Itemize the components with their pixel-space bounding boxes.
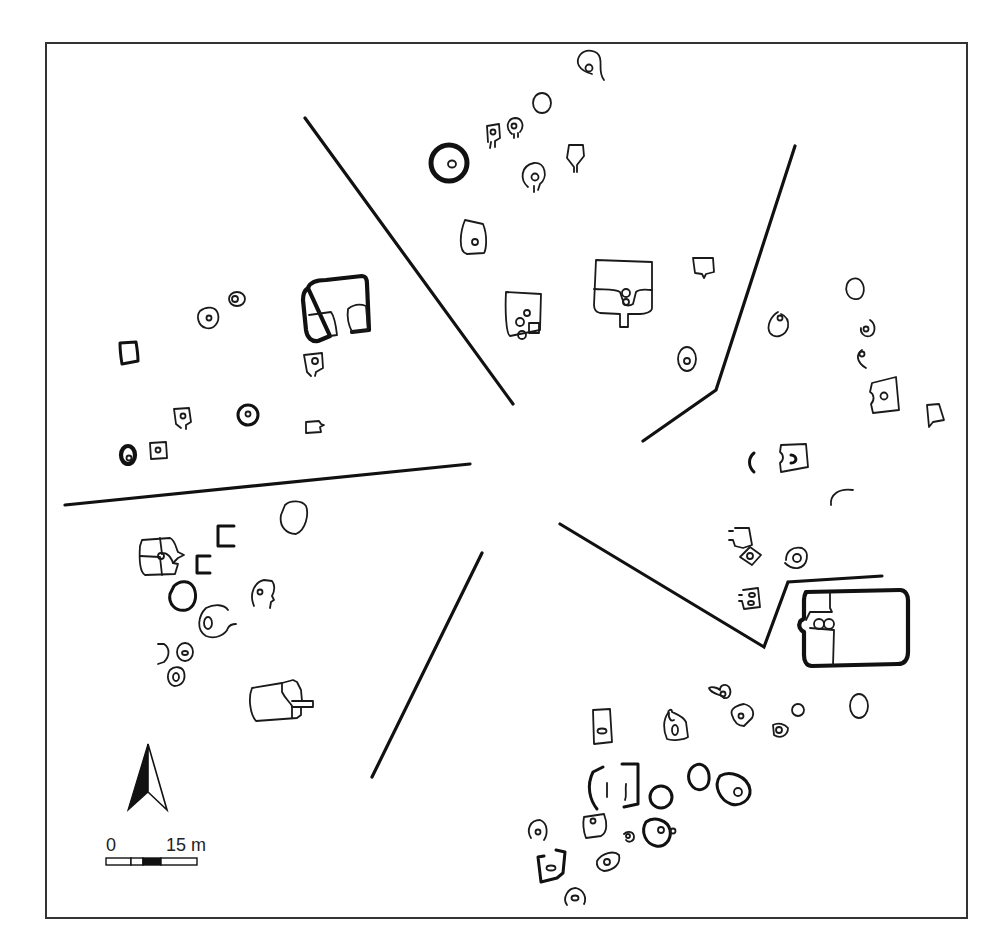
post-hole <box>824 619 834 629</box>
post-hole <box>491 130 496 135</box>
post-hole <box>204 617 212 629</box>
scale-start-label: 0 <box>106 835 116 855</box>
post-hole <box>671 829 676 834</box>
post-hole <box>586 65 593 72</box>
post-hole <box>156 448 161 453</box>
structure <box>780 444 808 472</box>
northwest-divider <box>305 118 513 404</box>
post-hole <box>721 692 726 697</box>
post-hole <box>749 593 755 597</box>
post-hole <box>739 714 744 719</box>
post-hole <box>182 651 188 655</box>
northeast-divider <box>643 146 795 441</box>
arc-structure <box>831 490 853 505</box>
round-structure <box>238 405 258 425</box>
square-structure <box>120 342 138 364</box>
structure <box>168 667 185 686</box>
scale-end-label: 15 m <box>166 835 206 855</box>
scale-segment <box>161 858 197 865</box>
post-hole <box>860 352 865 357</box>
post-hole <box>881 393 888 400</box>
post-hole <box>658 827 664 833</box>
scale-segment <box>106 858 131 865</box>
structure <box>583 814 606 838</box>
arc-structure <box>158 644 169 664</box>
large-building <box>594 260 652 327</box>
post-hole <box>684 358 690 364</box>
post-hole <box>598 729 607 734</box>
post-hole <box>472 239 478 245</box>
post-hole <box>672 725 678 735</box>
c-structure <box>218 526 234 546</box>
structure <box>533 93 551 113</box>
round-structure <box>644 819 671 846</box>
post-hole <box>181 414 186 419</box>
post-hole <box>207 316 212 321</box>
structure <box>740 547 761 565</box>
southwest-structures <box>140 501 313 721</box>
post-hole <box>864 327 869 332</box>
post-hole <box>547 866 556 871</box>
post-hole <box>246 412 251 417</box>
post-hole <box>622 289 630 297</box>
structure <box>739 588 760 609</box>
post-hole <box>591 819 596 824</box>
dividing-lines <box>65 118 882 777</box>
west-divider <box>65 464 470 505</box>
interior-wall <box>282 683 292 718</box>
structure <box>709 685 730 698</box>
interior-room <box>348 305 368 332</box>
structure <box>693 258 714 278</box>
round-structure <box>689 764 710 789</box>
post-hole <box>532 174 539 181</box>
structure <box>669 713 674 721</box>
round-structure <box>650 786 672 808</box>
scale-segment <box>143 858 161 865</box>
structure <box>593 709 612 744</box>
structure <box>487 124 500 148</box>
structure <box>177 643 193 661</box>
scale-segment <box>131 858 143 865</box>
post-hole <box>127 456 132 461</box>
northwest-structures <box>120 276 369 464</box>
structure <box>597 853 620 871</box>
south-structures <box>529 709 750 905</box>
post-hole <box>312 358 318 364</box>
structure <box>567 145 584 172</box>
post-hole <box>747 553 753 559</box>
structure <box>252 580 274 608</box>
post-hole <box>512 124 517 129</box>
round-structure <box>717 774 750 805</box>
post-hole <box>536 830 541 835</box>
structure <box>565 888 585 905</box>
post-hole <box>793 554 801 562</box>
structure <box>150 442 167 459</box>
structure <box>870 377 899 413</box>
post-hole <box>748 601 754 605</box>
structure <box>850 694 868 718</box>
structure <box>927 404 944 427</box>
north-arrow-icon <box>128 744 167 810</box>
structure <box>846 278 864 299</box>
post-hole <box>516 318 524 326</box>
structure <box>792 704 804 716</box>
structure <box>306 421 324 433</box>
southeast-divider <box>560 524 882 647</box>
site-plan: 0 15 m <box>0 0 1007 951</box>
north-structures <box>431 51 714 371</box>
east-structures <box>750 278 945 505</box>
scale-bar: 0 15 m <box>106 835 206 865</box>
post-hole <box>778 316 783 321</box>
arc-structure <box>750 453 755 472</box>
post-hole <box>173 673 179 681</box>
post-hole <box>258 590 263 595</box>
bracket-structure <box>589 767 603 809</box>
post-hole <box>626 834 630 838</box>
c-structure <box>197 556 210 573</box>
structure <box>729 528 752 548</box>
post-hole <box>734 788 742 796</box>
post-hole <box>448 161 456 168</box>
post-hole <box>776 727 782 733</box>
structure <box>198 308 218 329</box>
interior-arc <box>791 455 796 463</box>
